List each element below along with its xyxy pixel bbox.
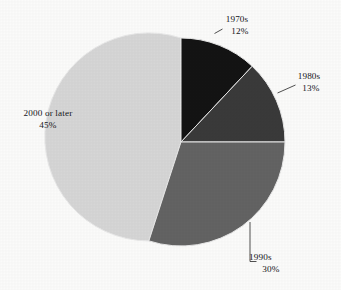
pie-label-2000-or-later-name: 2000 or later [8,108,88,120]
pie-chart: 1970s 12% 1980s 13% 2000 or later 45% 19… [0,0,341,290]
pie-label-1970s-name: 1970s [205,14,269,26]
pie-label-1990s: 1990s 30% [249,252,299,275]
pie-label-1980s: 1980s 13% [281,71,337,94]
pie-label-1990s-name: 1990s [249,252,299,264]
pie-label-2000-or-later-percent: 45% [8,120,88,132]
pie-label-1970s: 1970s 12% [205,14,269,37]
pie-label-1990s-percent: 30% [249,264,299,276]
pie-chart-canvas [0,0,341,290]
pie-label-2000-or-later: 2000 or later 45% [8,108,88,131]
pie-label-1980s-name: 1980s [281,71,337,83]
pie-label-1970s-percent: 12% [205,26,269,38]
pie-label-1980s-percent: 13% [281,83,337,95]
